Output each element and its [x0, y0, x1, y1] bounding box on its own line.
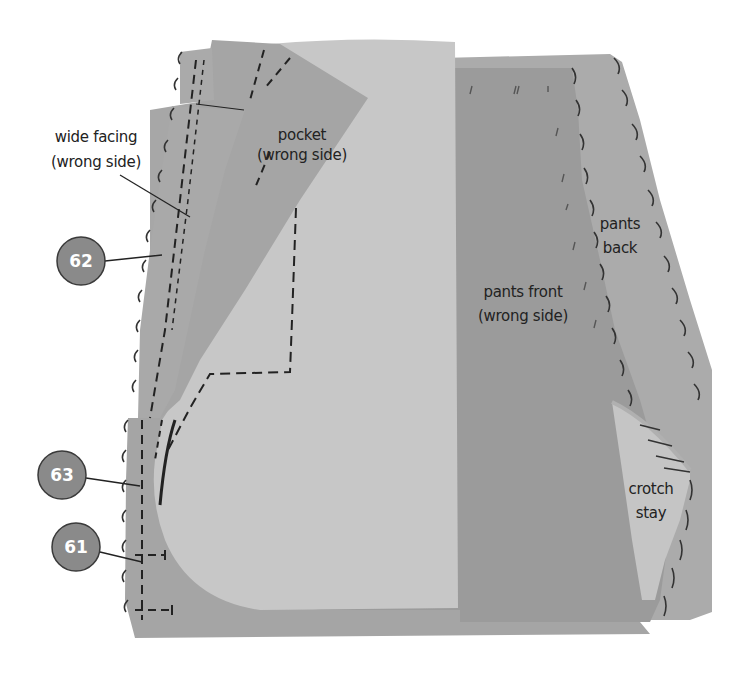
callout-62: 62	[57, 237, 162, 285]
callout-63-number: 63	[50, 465, 74, 485]
waistband-piece	[180, 48, 214, 104]
callout-63: 63	[38, 451, 140, 499]
label-wide-facing-line1: wide facing	[55, 128, 138, 146]
sewing-diagram: pocket (wrong side) wide facing (wrong s…	[0, 0, 729, 674]
label-pants-back-line2: back	[603, 239, 638, 257]
label-pocket-line1: pocket	[278, 126, 327, 144]
callout-61-number: 61	[64, 537, 88, 557]
label-pants-back-line1: pants	[600, 215, 641, 233]
label-pants-front-line1: pants front	[483, 283, 562, 301]
label-wide-facing-line2: (wrong side)	[51, 153, 141, 171]
label-crotch-stay-line1: crotch	[628, 480, 673, 498]
label-crotch-stay-line2: stay	[636, 504, 667, 522]
callout-62-number: 62	[69, 251, 93, 271]
label-pocket-line2: (wrong side)	[257, 146, 347, 164]
label-pants-front-line2: (wrong side)	[478, 307, 568, 325]
